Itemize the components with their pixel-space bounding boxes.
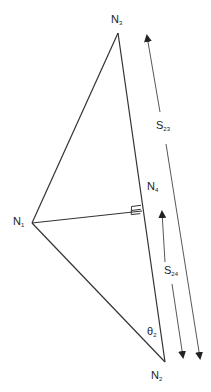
edge-n1-n4	[32, 211, 142, 223]
label-s23-sub: 23	[163, 126, 170, 132]
label-n2: N2	[151, 370, 162, 382]
dimension-arrow-s24-upper	[162, 212, 165, 262]
edge-n3-n2	[118, 33, 165, 362]
label-n1: N1	[13, 216, 24, 228]
edge-n1-n2	[32, 223, 165, 362]
dimension-arrow-s24-lower	[172, 284, 183, 357]
label-s24: S24	[164, 265, 178, 277]
label-n2-sub: 2	[159, 376, 162, 382]
triangle-diagram: N3 S23 N4 N1 S24 θ2 N2	[0, 0, 211, 392]
label-n4-sub: 4	[155, 187, 158, 193]
edge-n1-n3	[32, 33, 118, 223]
dimension-arrow-s23-lower	[166, 144, 200, 358]
label-n3-base: N	[111, 13, 119, 25]
diagram-svg	[0, 0, 211, 392]
label-n2-base: N	[151, 369, 159, 381]
label-n4: N4	[147, 181, 158, 193]
label-s24-sub: 24	[171, 271, 178, 277]
label-theta2: θ2	[147, 326, 156, 338]
label-s23: S23	[156, 120, 170, 132]
label-n4-base: N	[147, 180, 155, 192]
label-n1-sub: 1	[21, 222, 24, 228]
label-n1-base: N	[13, 215, 21, 227]
label-n3: N3	[111, 14, 122, 26]
label-theta2-sub: 2	[153, 332, 156, 338]
label-n3-sub: 3	[119, 20, 122, 26]
right-angle-marker	[131, 205, 141, 214]
dimension-arrow-s23-upper	[147, 36, 160, 112]
